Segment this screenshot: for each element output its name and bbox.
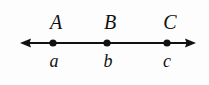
point-dot-B xyxy=(103,39,110,46)
point-label-C: C xyxy=(163,12,176,32)
point-label-B: B xyxy=(104,12,116,32)
axis-arrow-left-icon xyxy=(20,39,31,48)
point-dot-A xyxy=(49,39,56,46)
number-line-figure: A B C a b c xyxy=(0,0,209,85)
coordinate-label-c: c xyxy=(163,52,171,70)
coordinate-label-b: b xyxy=(104,52,113,70)
coordinate-label-a: a xyxy=(50,52,59,70)
point-dot-C xyxy=(163,39,170,46)
axis-arrow-right-icon xyxy=(185,39,196,48)
point-label-A: A xyxy=(50,12,62,32)
